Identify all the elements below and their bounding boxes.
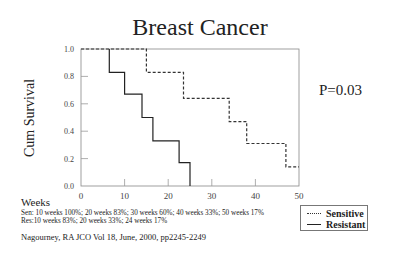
svg-text:0.8: 0.8: [64, 72, 74, 81]
svg-text:0.4: 0.4: [64, 127, 74, 136]
svg-text:50: 50: [295, 191, 305, 201]
svg-text:40: 40: [251, 191, 261, 201]
series-sensitive: [81, 49, 299, 167]
svg-text:20: 20: [164, 191, 174, 201]
svg-text:0.0: 0.0: [64, 182, 74, 191]
legend-item-resistant: Resistant: [307, 219, 367, 230]
svg-text:30: 30: [207, 191, 217, 201]
svg-text:0.6: 0.6: [64, 100, 74, 109]
dotted-line-swatch-icon: [307, 213, 321, 214]
legend-item-sensitive: Sensitive: [307, 208, 367, 219]
citation: Nagourney, RA JCO Vol 18, June, 2000, pp…: [21, 232, 206, 242]
series-resistant: [109, 49, 190, 186]
svg-text:0.2: 0.2: [64, 155, 74, 164]
solid-line-swatch-icon: [307, 224, 321, 225]
svg-text:10: 10: [120, 191, 130, 201]
legend: Sensitive Resistant: [300, 205, 368, 231]
svg-text:0: 0: [79, 191, 84, 201]
resistant-summary: Res:10 weeks 83%; 20 weeks 33%; 24 weeks…: [21, 217, 167, 225]
svg-text:1.0: 1.0: [64, 45, 74, 54]
sensitive-summary: Sen: 10 weeks 100%; 20 weeks 83%; 30 wee…: [21, 209, 264, 217]
x-axis-label: Weeks: [21, 196, 50, 208]
axes: 0.00.20.40.60.81.001020304050: [64, 45, 304, 201]
series: [81, 49, 299, 186]
